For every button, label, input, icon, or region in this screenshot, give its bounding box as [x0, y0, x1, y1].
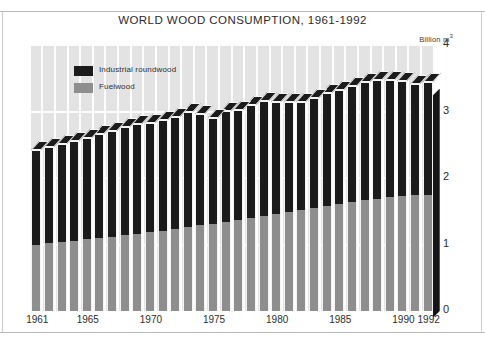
bar-1976	[221, 111, 231, 311]
segment-industrial-roundwood	[284, 102, 294, 212]
bar-1990	[397, 81, 407, 311]
figure-frame: WORLD WOOD CONSUMPTION, 1961-1992 Billio…	[0, 0, 485, 339]
bar-1970	[145, 123, 155, 311]
bar-1962	[44, 147, 54, 311]
segment-industrial-roundwood	[296, 102, 306, 210]
segment-fuelwood	[120, 235, 130, 311]
x-tick-1975: 1975	[194, 314, 234, 325]
bar-1972	[170, 117, 180, 311]
segment-industrial-roundwood	[372, 80, 382, 198]
segment-fuelwood	[259, 216, 269, 311]
bar-1984	[322, 93, 332, 311]
segment-industrial-roundwood	[170, 117, 180, 229]
right-rule	[481, 11, 482, 333]
bar-1992	[423, 82, 433, 311]
x-tick-1965: 1965	[68, 314, 108, 325]
bar-1987	[360, 82, 370, 311]
segment-industrial-roundwood	[410, 84, 420, 195]
x-tick-1992: 1992	[409, 314, 449, 325]
segment-industrial-roundwood	[107, 131, 117, 237]
segment-fuelwood	[158, 231, 168, 311]
segment-industrial-roundwood	[246, 105, 256, 218]
segment-fuelwood	[132, 234, 142, 311]
segment-industrial-roundwood	[195, 114, 205, 226]
y-tick-4: 4	[443, 37, 465, 49]
segment-industrial-roundwood	[145, 123, 155, 232]
segment-industrial-roundwood	[259, 101, 269, 216]
legend-swatch-industrial-roundwood	[74, 66, 93, 76]
bar-1980	[271, 102, 281, 311]
x-tick-1961: 1961	[17, 314, 57, 325]
segment-fuelwood	[271, 214, 281, 311]
bar-1963	[57, 144, 67, 311]
x-tick-1985: 1985	[320, 314, 360, 325]
segment-industrial-roundwood	[158, 120, 168, 230]
segment-fuelwood	[82, 239, 92, 311]
x-tick-1980: 1980	[257, 314, 297, 325]
segment-fuelwood	[397, 196, 407, 311]
y-tick-1: 1	[443, 237, 465, 249]
segment-fuelwood	[372, 199, 382, 311]
segment-industrial-roundwood	[69, 141, 79, 241]
segment-fuelwood	[57, 242, 67, 311]
bar-1967	[107, 131, 117, 311]
segment-industrial-roundwood	[271, 102, 281, 214]
top-rule	[0, 11, 485, 12]
segment-fuelwood	[385, 197, 395, 311]
segment-industrial-roundwood	[322, 93, 332, 206]
segment-fuelwood	[334, 204, 344, 311]
bar-1988	[372, 80, 382, 311]
bar-1966	[94, 134, 104, 311]
legend-label-fuelwood: Fuelwood	[99, 82, 135, 91]
segment-industrial-roundwood	[347, 86, 357, 202]
segment-fuelwood	[347, 202, 357, 311]
bar-1974	[195, 114, 205, 312]
segment-fuelwood	[284, 212, 294, 311]
segment-fuelwood	[94, 238, 104, 311]
segment-industrial-roundwood	[360, 82, 370, 200]
legend-swatch-fuelwood	[74, 83, 93, 93]
bar-1977	[233, 110, 243, 311]
segment-fuelwood	[170, 229, 180, 311]
bar-1965	[82, 138, 92, 311]
segment-fuelwood	[360, 200, 370, 311]
segment-industrial-roundwood	[397, 81, 407, 196]
segment-industrial-roundwood	[57, 144, 67, 242]
segment-industrial-roundwood	[120, 127, 130, 235]
segment-fuelwood	[246, 218, 256, 311]
segment-fuelwood	[410, 195, 420, 311]
segment-fuelwood	[322, 206, 332, 311]
segment-industrial-roundwood	[31, 150, 41, 244]
segment-fuelwood	[145, 232, 155, 311]
bar-1973	[183, 112, 193, 311]
segment-fuelwood	[183, 227, 193, 311]
bar-1981	[284, 102, 294, 311]
bar-1964	[69, 141, 79, 311]
bottom-rule	[0, 332, 485, 333]
gridline-4	[31, 44, 435, 46]
bar-1982	[296, 102, 306, 311]
segment-fuelwood	[309, 208, 319, 311]
left-rule	[2, 11, 3, 333]
segment-industrial-roundwood	[82, 138, 92, 239]
segment-fuelwood	[31, 245, 41, 312]
x-tick-1970: 1970	[131, 314, 171, 325]
bar-1978	[246, 105, 256, 311]
segment-fuelwood	[221, 222, 231, 311]
segment-fuelwood	[423, 195, 433, 311]
bar-1983	[309, 98, 319, 311]
bar-1989	[385, 80, 395, 311]
segment-industrial-roundwood	[385, 80, 395, 198]
segment-industrial-roundwood	[334, 90, 344, 204]
bar-1985	[334, 90, 344, 311]
segment-fuelwood	[233, 220, 243, 311]
segment-industrial-roundwood	[183, 112, 193, 227]
segment-fuelwood	[208, 224, 218, 311]
segment-fuelwood	[195, 225, 205, 311]
segment-industrial-roundwood	[423, 82, 433, 195]
segment-fuelwood	[44, 243, 54, 311]
segment-industrial-roundwood	[208, 118, 218, 224]
bar-1971	[158, 120, 168, 311]
segment-industrial-roundwood	[221, 111, 231, 222]
segment-fuelwood	[296, 210, 306, 311]
